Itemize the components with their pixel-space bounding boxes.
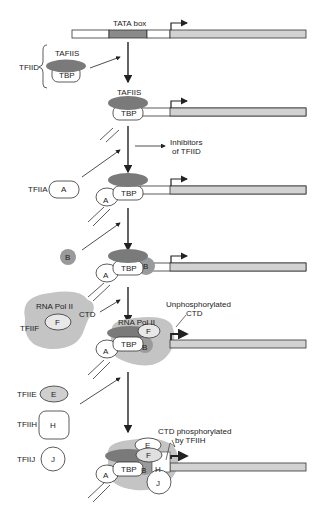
promoter-dna-stage1 xyxy=(72,23,306,38)
tafs-bound-label: TAFIIS xyxy=(117,88,141,97)
tfiif-label: TFIIF xyxy=(20,324,39,333)
tfiih-label: TFIIH xyxy=(17,420,37,429)
ctd-phos-label-1: CTD phosphorylated xyxy=(158,427,231,436)
a-s6-label: A xyxy=(103,471,108,480)
ctd-phos-label-2: by TFIIH xyxy=(175,436,206,445)
a-free-label: A xyxy=(61,185,66,194)
h-free-label: H xyxy=(50,421,56,430)
tata-box xyxy=(109,30,147,38)
tata-box-label: TATA box xyxy=(113,19,146,28)
tfiid-brace xyxy=(39,45,47,88)
b-s4-label: B xyxy=(143,262,148,271)
a-s3-label: A xyxy=(103,196,108,205)
h-s6-label: H xyxy=(155,465,161,474)
b-s5-label: B xyxy=(142,343,147,352)
stage4-tfiib-bound xyxy=(88,249,306,301)
stage3-tfiia-bound xyxy=(88,173,306,226)
rna-pol-free-label: RNA Pol II xyxy=(36,302,73,311)
tfiid-label: TFIID xyxy=(19,63,39,72)
tbp-s6-label: TBP xyxy=(121,465,137,474)
tfiia-label: TFIIA xyxy=(28,185,48,194)
j-free-label: J xyxy=(51,455,55,464)
stage2-tfiid-bound xyxy=(100,96,306,146)
a-s4-label: A xyxy=(103,271,108,280)
f-free-label: F xyxy=(55,318,60,327)
tbp-s3-label: TBP xyxy=(121,189,137,198)
tbp-s2-label: TBP xyxy=(121,109,137,118)
tfiij-label: TFIIJ xyxy=(17,455,35,464)
tbp-s5-label: TBP xyxy=(121,340,137,349)
b-s6-label: B xyxy=(141,466,146,475)
unphos-ctd-label-1: Unphosphorylated xyxy=(166,300,231,309)
tbp-s4-label: TBP xyxy=(121,264,137,273)
inhibitors-label-2: of TFIID xyxy=(172,147,201,156)
a-s5-label: A xyxy=(103,347,108,356)
pic-assembly-diagram xyxy=(0,0,324,517)
j-s6-label: J xyxy=(156,479,160,488)
e-free-label: E xyxy=(51,390,56,399)
f-s6-label: F xyxy=(146,451,151,460)
tafs-free-label: TAFIIS xyxy=(55,49,79,58)
transcription-start-arrow-icon xyxy=(171,23,187,30)
tfiie-label: TFIIE xyxy=(17,390,37,399)
ctd-free-label: CTD xyxy=(79,310,95,319)
tfiid-free xyxy=(39,45,120,88)
tbp-free-label: TBP xyxy=(59,71,75,80)
inhibitors-label-1: Inhibitors xyxy=(170,138,202,147)
b-free-label: B xyxy=(65,253,70,262)
unphos-ctd-label-2: CTD xyxy=(186,309,202,318)
gene-body xyxy=(170,30,306,38)
rna-pol-s5-label: RNA Pol II xyxy=(118,318,155,327)
e-s6-label: E xyxy=(145,441,150,450)
f-s5-label: F xyxy=(146,327,151,336)
